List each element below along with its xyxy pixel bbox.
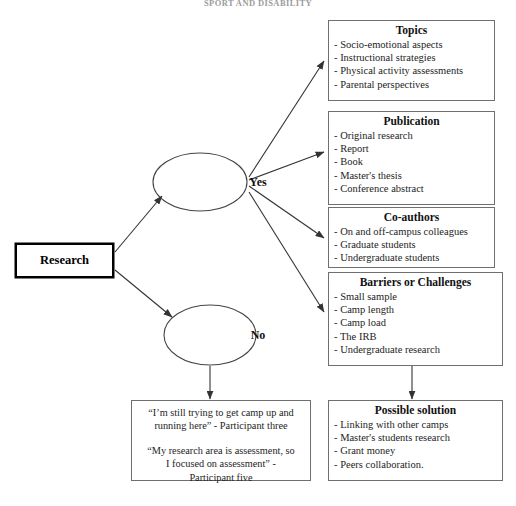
node-box-barriers[interactable]: Barriers or Challenges Small sample Camp… bbox=[328, 272, 503, 366]
quote-line: “My research area is assessment, so bbox=[138, 444, 304, 457]
list-item: Book bbox=[334, 155, 489, 168]
node-box-publication[interactable]: Publication Original research Report Boo… bbox=[328, 111, 495, 205]
connector-yes-to-co-authors bbox=[249, 186, 324, 238]
box-title-co-authors: Co-authors bbox=[334, 210, 489, 224]
list-item: On and off-campus colleagues bbox=[334, 225, 489, 238]
node-box-co-authors[interactable]: Co-authors On and off-campus colleagues … bbox=[328, 207, 495, 268]
quote-spacer bbox=[138, 433, 304, 444]
list-item: Peers collaboration. bbox=[334, 458, 497, 471]
list-item: Camp load bbox=[334, 316, 497, 329]
list-item: Master's students research bbox=[334, 431, 497, 444]
diagram-page: SPORT AND DISABILITY Yes No Rese bbox=[0, 0, 516, 506]
list-item: Undergraduate students bbox=[334, 251, 489, 264]
box-title-publication: Publication bbox=[334, 114, 489, 128]
node-box-possible-solution[interactable]: Possible solution Linking with other cam… bbox=[328, 400, 503, 481]
root-node-label: Research bbox=[17, 245, 112, 276]
connector-yes-to-barriers bbox=[249, 192, 324, 312]
quote-line: Participant five bbox=[138, 471, 304, 484]
list-item: The IRB bbox=[334, 330, 497, 343]
connector-yes-to-topics bbox=[249, 61, 324, 177]
quote-line: “I’m still trying to get camp up and bbox=[138, 406, 304, 419]
list-item: Socio-emotional aspects bbox=[334, 38, 489, 51]
list-item: Grant money bbox=[334, 444, 497, 457]
list-item: Instructional strategies bbox=[334, 51, 489, 64]
list-item: Physical activity assessments bbox=[334, 64, 489, 77]
quote-line: I focused on assessment” - bbox=[138, 457, 304, 470]
list-item: Linking with other camps bbox=[334, 418, 497, 431]
box-title-possible-solution: Possible solution bbox=[334, 403, 497, 417]
box-list-co-authors: On and off-campus colleagues Graduate st… bbox=[334, 225, 489, 265]
list-item: Graduate students bbox=[334, 238, 489, 251]
node-box-topics[interactable]: Topics Socio-emotional aspects Instructi… bbox=[328, 20, 495, 101]
list-item: Conference abstract bbox=[334, 182, 489, 195]
box-list-topics: Socio-emotional aspects Instructional st… bbox=[334, 38, 489, 91]
list-item: Undergraduate research bbox=[334, 343, 497, 356]
list-item: Parental perspectives bbox=[334, 78, 489, 91]
box-list-barriers: Small sample Camp length Camp load The I… bbox=[334, 290, 497, 356]
connector-research-to-yes bbox=[115, 196, 162, 252]
box-list-possible-solution: Linking with other camps Master's studen… bbox=[334, 418, 497, 471]
root-node-research[interactable]: Research bbox=[15, 243, 114, 278]
box-title-barriers: Barriers or Challenges bbox=[334, 275, 497, 289]
list-item: Small sample bbox=[334, 290, 497, 303]
quote-box-participants[interactable]: “I’m still trying to get camp up and run… bbox=[131, 400, 311, 481]
box-list-publication: Original research Report Book Master's t… bbox=[334, 129, 489, 195]
list-item: Camp length bbox=[334, 303, 497, 316]
box-title-topics: Topics bbox=[334, 23, 489, 37]
quote-line: running here” - Participant three bbox=[138, 419, 304, 432]
list-item: Original research bbox=[334, 129, 489, 142]
connector-research-to-no bbox=[115, 270, 172, 317]
list-item: Report bbox=[334, 142, 489, 155]
list-item: Master's thesis bbox=[334, 169, 489, 182]
